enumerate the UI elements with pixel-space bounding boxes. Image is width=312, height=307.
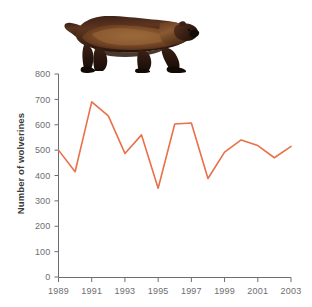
x-axis-tick-label: 1997 — [181, 286, 202, 296]
y-axis-tick-label: 400 — [35, 171, 51, 181]
y-axis-tick-label: 500 — [35, 145, 51, 155]
chart-axes — [59, 74, 292, 278]
y-axis-tick-label: 100 — [35, 247, 51, 257]
x-axis-tick-label: 1991 — [81, 286, 102, 296]
x-axis-tick-label: 1989 — [48, 286, 69, 296]
y-axis-tick-label: 600 — [35, 120, 51, 130]
x-axis-tick-label: 1995 — [148, 286, 169, 296]
y-axis-title: Number of wolverines — [15, 89, 26, 239]
y-axis-ticks: 0100200300400500600700800 — [35, 69, 59, 282]
x-axis-ticks: 19891991199319951997199920012003 — [48, 278, 301, 297]
x-axis-tick-label: 2003 — [281, 286, 302, 296]
y-axis-tick-label: 700 — [35, 95, 51, 105]
y-axis-tick-label: 800 — [35, 69, 51, 79]
y-axis-tick-label: 200 — [35, 221, 51, 231]
chart-data-layer — [59, 102, 292, 188]
wolverine-population-line — [59, 102, 292, 188]
x-axis-tick-label: 2001 — [247, 286, 268, 296]
line-chart: 0100200300400500600700800 19891991199319… — [0, 0, 312, 307]
x-axis-tick-label: 1999 — [214, 286, 235, 296]
y-axis-tick-label: 300 — [35, 196, 51, 206]
wolverine-population-figure: 0100200300400500600700800 19891991199319… — [0, 0, 312, 307]
chart-svg: 0100200300400500600700800 19891991199319… — [0, 0, 312, 307]
y-axis-tick-label: 0 — [45, 272, 50, 282]
x-axis-tick-label: 1993 — [115, 286, 136, 296]
